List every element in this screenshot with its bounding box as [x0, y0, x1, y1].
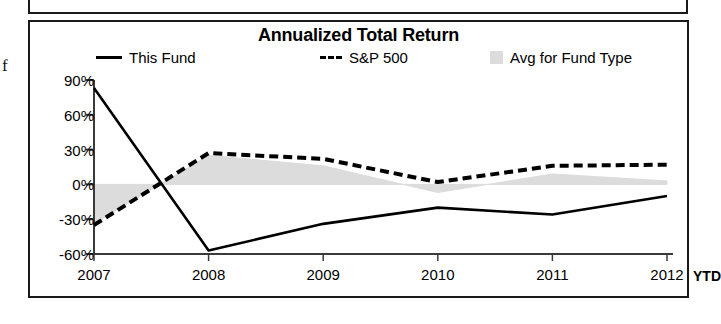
x-axis-tick-labels: 200720082009201020112012 — [30, 22, 687, 296]
x-axis-tick-label: 2009 — [307, 266, 340, 283]
annualized-total-return-panel: Annualized Total Return This Fund S&P 50… — [28, 20, 689, 298]
x-axis-tick-label: 2008 — [192, 266, 225, 283]
x-axis-tick-label: 2012 — [650, 266, 683, 283]
x-axis-tick-label: 2007 — [77, 266, 110, 283]
left-margin-clipped-text: f — [2, 57, 8, 74]
x-axis-tick-label: 2010 — [421, 266, 454, 283]
x-axis-ytd-label: YTD — [693, 268, 721, 284]
x-axis-tick-label: 2011 — [536, 266, 568, 283]
plot-area: 90%60%30%0%-30%-60% 20072008200920102011… — [30, 22, 687, 296]
top-partial-panel — [28, 0, 688, 14]
